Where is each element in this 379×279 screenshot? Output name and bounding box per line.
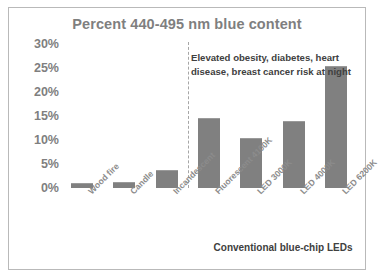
y-axis-tick: 30% bbox=[34, 38, 59, 51]
y-axis-tick: 25% bbox=[34, 62, 59, 75]
led-group-caption: Conventional blue-chip LEDs bbox=[205, 242, 361, 253]
bar-slot bbox=[61, 44, 103, 188]
chart-title: Percent 440-495 nm blue content bbox=[9, 16, 365, 32]
y-axis-tick: 15% bbox=[34, 110, 59, 123]
chart-frame: Percent 440-495 nm blue content 30%25%20… bbox=[8, 7, 366, 270]
bar[interactable] bbox=[283, 121, 305, 188]
risk-annotation: Elevated obesity, diabetes, heart diseas… bbox=[191, 51, 363, 78]
y-axis: 30%25%20%15%10%5%0% bbox=[17, 44, 59, 188]
y-axis-tick: 10% bbox=[34, 134, 59, 147]
y-axis-tick: 20% bbox=[34, 86, 59, 99]
y-axis-tick: 5% bbox=[41, 158, 59, 171]
y-axis-tick: 0% bbox=[41, 182, 59, 195]
bar-slot bbox=[146, 44, 188, 188]
